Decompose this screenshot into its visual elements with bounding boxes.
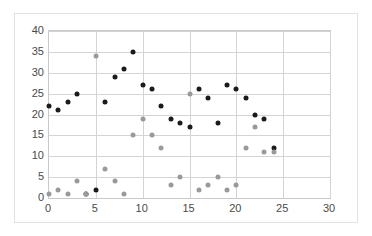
data-point: [224, 83, 229, 88]
gridline-horizontal: [49, 31, 330, 32]
gridline-horizontal: [49, 177, 330, 178]
data-point: [224, 187, 229, 192]
data-point: [93, 187, 98, 192]
y-axis-tick-label: 40: [16, 25, 44, 36]
data-point: [47, 104, 52, 109]
data-point: [253, 112, 258, 117]
gridline-horizontal: [49, 135, 330, 136]
data-point: [131, 49, 136, 54]
x-axis-tick-labels: 051015202530: [48, 203, 331, 219]
y-axis-tick-label: 0: [16, 192, 44, 203]
data-point: [206, 95, 211, 100]
data-point: [159, 145, 164, 150]
x-axis-tick-label: 10: [127, 203, 157, 214]
x-axis-tick-label: 25: [267, 203, 297, 214]
data-point: [150, 133, 155, 138]
y-axis-tick-label: 20: [16, 108, 44, 119]
data-point: [178, 120, 183, 125]
x-axis-tick-label: 0: [33, 203, 63, 214]
data-point: [178, 175, 183, 180]
data-point: [215, 175, 220, 180]
y-axis-tick-label: 10: [16, 150, 44, 161]
data-point: [159, 104, 164, 109]
data-point: [187, 125, 192, 130]
y-axis-tick-label: 25: [16, 87, 44, 98]
data-point: [262, 150, 267, 155]
x-axis-tick-label: 5: [80, 203, 110, 214]
data-point: [65, 99, 70, 104]
data-point: [196, 87, 201, 92]
y-axis-tick-label: 15: [16, 129, 44, 140]
data-point: [271, 150, 276, 155]
data-point: [56, 187, 61, 192]
data-point: [187, 91, 192, 96]
gridline-horizontal: [49, 115, 330, 116]
plot-area: [48, 30, 331, 199]
data-point: [150, 87, 155, 92]
data-point: [140, 83, 145, 88]
data-point: [112, 179, 117, 184]
y-axis-tick-label: 5: [16, 171, 44, 182]
data-point: [121, 191, 126, 196]
x-axis-tick-label: 15: [174, 203, 204, 214]
data-point: [206, 183, 211, 188]
data-point: [84, 191, 89, 196]
x-axis-tick-label: 30: [314, 203, 344, 214]
data-point: [262, 116, 267, 121]
data-point: [168, 116, 173, 121]
data-point: [243, 145, 248, 150]
data-point: [56, 108, 61, 113]
data-point: [234, 87, 239, 92]
data-point: [196, 187, 201, 192]
gridline-vertical: [330, 31, 331, 198]
data-point: [103, 166, 108, 171]
data-point: [131, 133, 136, 138]
data-point: [243, 95, 248, 100]
gridline-horizontal: [49, 73, 330, 74]
gridline-horizontal: [49, 156, 330, 157]
data-point: [168, 183, 173, 188]
data-point: [93, 54, 98, 59]
data-point: [140, 116, 145, 121]
data-point: [121, 66, 126, 71]
data-point: [112, 74, 117, 79]
gridline-horizontal: [49, 52, 330, 53]
data-point: [215, 120, 220, 125]
data-point: [65, 191, 70, 196]
data-point: [234, 183, 239, 188]
y-axis-tick-label: 35: [16, 45, 44, 56]
data-point: [47, 191, 52, 196]
data-point: [103, 99, 108, 104]
data-point: [253, 125, 258, 130]
data-point: [75, 91, 80, 96]
data-point: [75, 179, 80, 184]
y-axis-tick-label: 30: [16, 66, 44, 77]
y-axis-tick-labels: 0510152025303540: [15, 30, 44, 199]
x-axis-tick-label: 20: [220, 203, 250, 214]
scatter-chart-figure: 0510152025303540 051015202530: [14, 13, 358, 223]
